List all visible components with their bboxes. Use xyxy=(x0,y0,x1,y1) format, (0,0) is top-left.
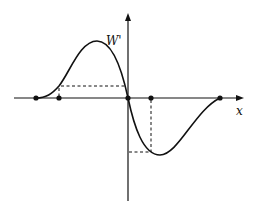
point-left-zero xyxy=(33,95,38,100)
point-left-projection xyxy=(56,95,61,100)
point-right-zero xyxy=(217,95,222,100)
y-axis-arrow-icon xyxy=(125,13,131,21)
point-right-projection xyxy=(148,95,153,100)
y-axis-label: W' xyxy=(106,34,122,48)
point-origin xyxy=(125,95,130,100)
x-axis-arrow-icon xyxy=(236,95,244,101)
diagram-canvas xyxy=(0,0,256,212)
x-axis-label: x xyxy=(236,104,243,118)
dashed-guides xyxy=(59,86,151,152)
diagram: W' x xyxy=(0,0,256,212)
